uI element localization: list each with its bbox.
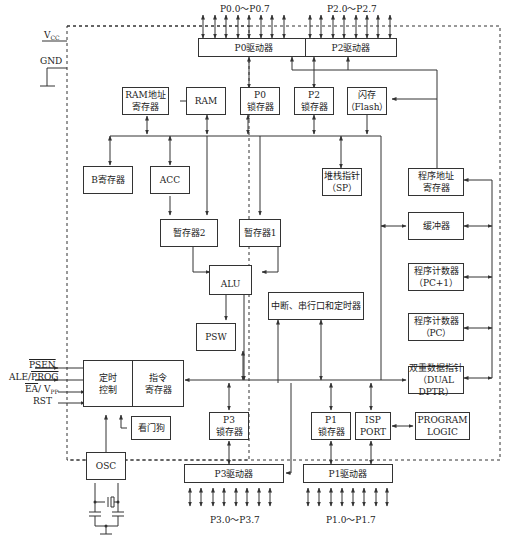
p3-driver-block: P3驱动器 [184, 464, 284, 483]
p1-port-label: P1.0～P1.7 [326, 513, 376, 526]
p2-latch-block: P2锁存器 [294, 87, 334, 115]
rst-pin-label: RST [33, 396, 52, 406]
watchdog-block: 看门狗 [131, 416, 171, 440]
program-logic-block: PROGRAMLOGIC [415, 412, 470, 440]
psw-block: PSW [196, 323, 236, 351]
instruction-register-block: 指令寄存器 [132, 360, 184, 407]
stack-pointer-block: 堆栈指针（SP） [322, 168, 362, 196]
p3-port-label: P3.0～P3.7 [210, 513, 260, 526]
program-address-register-block: 程序地址寄存器 [408, 168, 464, 196]
p3-latch-block: P3锁存器 [209, 412, 249, 440]
ale-prog-pin-label: ALE/PROG [9, 372, 58, 382]
acc-block: ACC [150, 166, 190, 194]
ea-vpp-pin-label: EA/ VPP [25, 384, 59, 395]
vcc-label: VCC [44, 30, 60, 41]
ram-block: RAM [186, 87, 226, 115]
isp-port-block: ISPPORT [355, 412, 391, 440]
temp-register-1-block: 暂存器1 [239, 219, 281, 247]
ram-address-register-block: RAM地址寄存器 [122, 87, 169, 115]
p2-port-label: P2.0～P2.7 [327, 2, 377, 15]
p1-driver-block: P1驱动器 [303, 464, 393, 483]
flash-block: 闪存（Flash） [347, 87, 387, 115]
temp-register-2-block: 暂存器2 [160, 219, 218, 247]
p1-latch-block: P1锁存器 [311, 412, 351, 440]
p0-port-label: P0.0～P0.7 [220, 2, 270, 15]
program-counter-plus-one-block: 程序计数器（PC+1） [408, 263, 464, 291]
buffer-block: 缓冲器 [408, 212, 464, 240]
dual-dptr-block: 双重数据指针（DUAL DPTR） [408, 366, 464, 394]
osc-block: OSC [86, 452, 126, 480]
p0-latch-block: P0锁存器 [240, 87, 280, 115]
gnd-label: GND [40, 56, 62, 66]
b-register-block: B寄存器 [83, 166, 133, 194]
program-counter-block: 程序计数器（PC） [408, 313, 464, 341]
p2-driver-block: P2驱动器 [305, 38, 397, 57]
psen-pin-label: PSEN [29, 360, 56, 370]
p0-driver-block: P0驱动器 [198, 38, 310, 57]
interrupt-serial-timer-block: 中断、串行口和定时器 [268, 292, 364, 320]
timing-control-block: 定时控制 [83, 360, 133, 407]
alu-block: ALU [209, 265, 252, 295]
